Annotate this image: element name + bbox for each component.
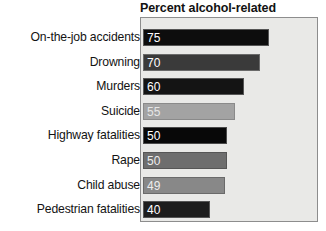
bar-row: Pedestrian fatalities40 xyxy=(0,199,326,220)
bar-value-label: 50 xyxy=(147,128,160,145)
bar-row: On-the-job accidents75 xyxy=(0,27,326,48)
category-label: Murders xyxy=(96,76,140,97)
bar: 75 xyxy=(143,29,269,46)
category-label: Rape xyxy=(111,150,140,171)
bar: 55 xyxy=(143,103,235,120)
bar: 70 xyxy=(143,54,260,71)
bar-wrapper: 70 xyxy=(143,54,260,71)
bar-wrapper: 50 xyxy=(143,127,227,144)
category-label: Child abuse xyxy=(77,175,140,196)
bar-value-label: 75 xyxy=(147,30,160,47)
bar-row: Drowning70 xyxy=(0,52,326,73)
bar-value-label: 40 xyxy=(147,202,160,219)
bar-chart-figure: Percent alcohol-related On-the-job accid… xyxy=(0,0,326,231)
bar: 60 xyxy=(143,78,244,95)
bar-value-label: 49 xyxy=(147,178,160,195)
bar-value-label: 60 xyxy=(147,79,160,96)
category-label: Highway fatalities xyxy=(48,125,140,146)
bar-value-label: 50 xyxy=(147,153,160,170)
category-label: Pedestrian fatalities xyxy=(37,199,140,220)
bar: 49 xyxy=(143,177,225,194)
bar-row: Highway fatalities50 xyxy=(0,125,326,146)
bar: 50 xyxy=(143,127,227,144)
bar: 40 xyxy=(143,201,210,218)
bar-value-label: 70 xyxy=(147,55,160,72)
bar-row: Child abuse49 xyxy=(0,175,326,196)
chart-title: Percent alcohol-related xyxy=(140,1,320,15)
bar-wrapper: 55 xyxy=(143,103,235,120)
bar-wrapper: 75 xyxy=(143,29,269,46)
bar-wrapper: 60 xyxy=(143,78,244,95)
category-label: Drowning xyxy=(90,52,140,73)
bar: 50 xyxy=(143,152,227,169)
bar-wrapper: 40 xyxy=(143,201,210,218)
category-label: Suicide xyxy=(101,101,140,122)
bar-row: Suicide55 xyxy=(0,101,326,122)
bar-row: Murders60 xyxy=(0,76,326,97)
bar-wrapper: 49 xyxy=(143,177,225,194)
category-label: On-the-job accidents xyxy=(31,27,140,48)
bar-wrapper: 50 xyxy=(143,152,227,169)
bar-row: Rape50 xyxy=(0,150,326,171)
bar-value-label: 55 xyxy=(147,104,160,121)
